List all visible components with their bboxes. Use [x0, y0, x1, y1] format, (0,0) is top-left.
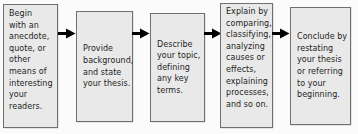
flow-step-1: Begin with an anecdote, quote, or other …	[3, 4, 58, 128]
flow-step-5-text: Conclude by restating your thesis or ref…	[291, 31, 347, 101]
arrow-right-icon	[272, 28, 290, 39]
flow-step-3-text: Describe your topic, defining any key te…	[151, 39, 200, 97]
flow-step-4: Explain by comparing, classifying, analy…	[220, 3, 273, 128]
flow-step-4-text: Explain by comparing, classifying, analy…	[221, 4, 272, 110]
flow-step-2-text: Provide background, and state your thesi…	[77, 43, 133, 89]
flow-step-1-text: Begin with an anecdote, quote, or other …	[4, 5, 57, 112]
arrow-right-icon	[58, 28, 76, 39]
flow-step-3: Describe your topic, defining any key te…	[150, 13, 205, 122]
flow-step-2: Provide background, and state your thesi…	[76, 11, 133, 122]
flow-step-5: Conclude by restating your thesis or ref…	[290, 7, 351, 125]
arrow-right-icon	[132, 28, 150, 39]
flow-chart: Begin with an anecdote, quote, or other …	[0, 0, 358, 134]
